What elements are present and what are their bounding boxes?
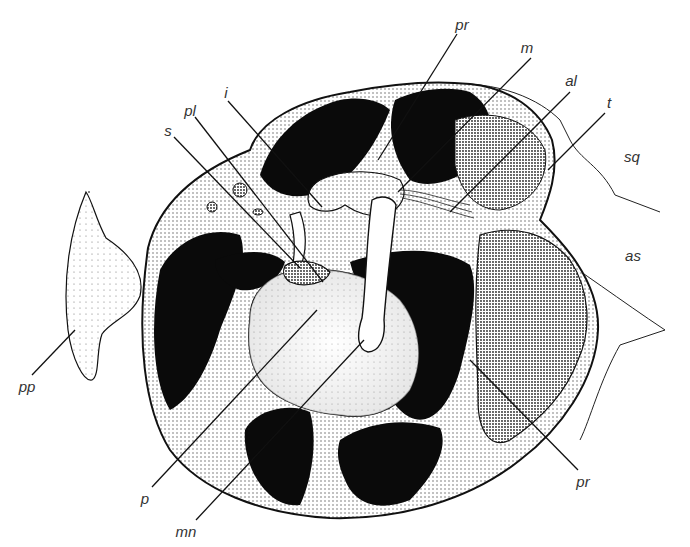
- label-t: t: [607, 95, 611, 110]
- ear-anatomy-drawing: [0, 0, 690, 547]
- label-m: m: [521, 40, 534, 55]
- label-mn: mn: [176, 524, 197, 539]
- label-pr-bottom: pr: [576, 474, 589, 489]
- label-p: p: [141, 491, 149, 506]
- label-as: as: [625, 248, 641, 263]
- label-pp: pp: [19, 379, 36, 394]
- label-al: al: [565, 73, 577, 88]
- label-s: s: [164, 123, 172, 138]
- label-sq: sq: [624, 149, 640, 164]
- leader-line-pp: [32, 330, 75, 375]
- label-pl: pl: [184, 103, 196, 118]
- paroccipital-process: [66, 192, 141, 380]
- label-i: i: [224, 85, 227, 100]
- label-pr-top: pr: [455, 17, 468, 32]
- illustration-canvas: pr m al t sq as i pl s pp p mn pr: [0, 0, 690, 547]
- leader-line-t: [548, 113, 605, 170]
